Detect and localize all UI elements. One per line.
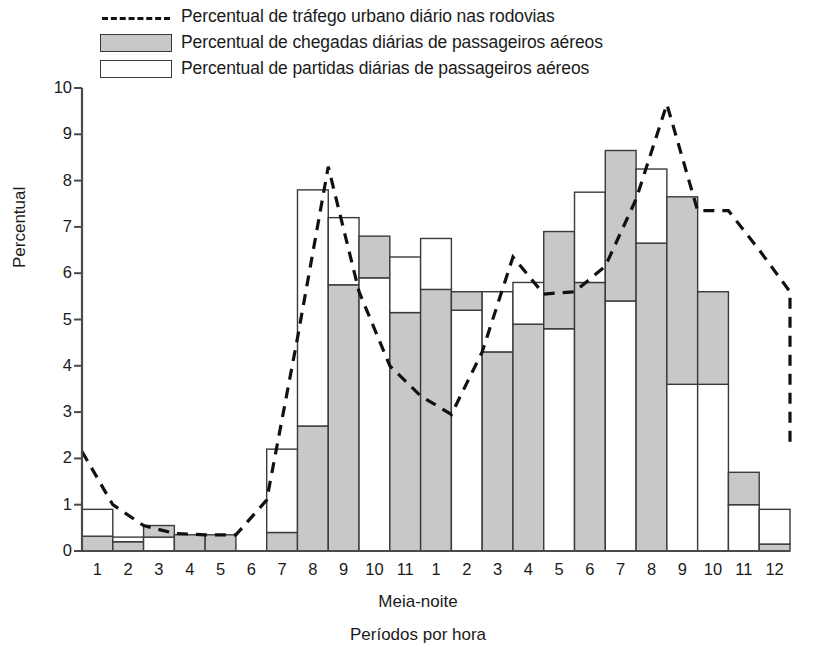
bar-segment-departures <box>605 301 636 551</box>
bar-segment-arrivals <box>297 426 328 551</box>
bar-segment-arrivals <box>667 197 698 385</box>
bar-segment-departures <box>544 329 575 551</box>
bar-segment-departures <box>698 384 729 551</box>
bar-segment-arrivals <box>205 535 236 551</box>
x-tick-label: 7 <box>604 561 638 578</box>
y-tick-label: 4 <box>34 357 72 374</box>
bars-group <box>82 151 790 552</box>
bar-segment-departures <box>451 310 482 551</box>
y-tick-label: 3 <box>34 403 72 420</box>
bar-segment-departures <box>636 169 667 243</box>
bar-segment-arrivals <box>328 285 359 551</box>
x-tick-label: 10 <box>357 561 391 578</box>
bar-segment-departures <box>267 449 298 532</box>
bar-segment-departures <box>667 384 698 551</box>
y-tick-label: 8 <box>34 172 72 189</box>
bar-segment-departures <box>390 257 421 313</box>
y-tick-label: 5 <box>34 311 72 328</box>
y-tick-label: 7 <box>34 218 72 235</box>
bar-segment-arrivals <box>513 324 544 551</box>
bar-segment-departures <box>82 509 113 536</box>
x-tick-label: 9 <box>665 561 699 578</box>
x-tick-label: 8 <box>634 561 668 578</box>
bar-segment-arrivals <box>451 292 482 311</box>
x-tick-label: 6 <box>234 561 268 578</box>
x-tick-label: 1 <box>80 561 114 578</box>
y-tick-label: 0 <box>34 542 72 559</box>
y-tick-label: 9 <box>34 125 72 142</box>
x-tick-label: 4 <box>511 561 545 578</box>
bar-segment-arrivals <box>82 536 113 551</box>
y-tick-label: 6 <box>34 264 72 281</box>
y-axis-title: Percentual <box>10 187 30 268</box>
x-tick-label: 3 <box>142 561 176 578</box>
bar-segment-departures <box>421 238 452 289</box>
plot-svg <box>0 0 836 657</box>
bar-segment-arrivals <box>575 282 606 551</box>
bar-segment-arrivals <box>728 472 759 504</box>
x-tick-label: 9 <box>327 561 361 578</box>
bar-segment-departures <box>513 282 544 324</box>
x-tick-label: 3 <box>481 561 515 578</box>
x-tick-label: 12 <box>758 561 792 578</box>
x-tick-label: 10 <box>696 561 730 578</box>
bar-segment-arrivals <box>421 289 452 551</box>
bar-segment-arrivals <box>482 352 513 551</box>
bar-segment-arrivals <box>113 542 144 551</box>
bar-segment-arrivals <box>698 292 729 385</box>
x-tick-label: 5 <box>542 561 576 578</box>
bar-segment-departures <box>759 509 790 544</box>
bar-segment-arrivals <box>636 243 667 551</box>
x-tick-label: 5 <box>204 561 238 578</box>
midnight-note: Meia-noite <box>0 592 836 612</box>
bar-segment-arrivals <box>544 232 575 329</box>
bar-segment-departures <box>359 278 390 551</box>
x-tick-label: 2 <box>111 561 145 578</box>
x-tick-label: 6 <box>573 561 607 578</box>
bar-segment-departures <box>113 537 144 542</box>
y-tick-label: 2 <box>34 449 72 466</box>
x-tick-label: 8 <box>296 561 330 578</box>
x-tick-label: 1 <box>419 561 453 578</box>
bar-segment-arrivals <box>605 151 636 301</box>
bar-segment-arrivals <box>267 532 298 551</box>
chart-container: Percentual de tráfego urbano diário nas … <box>0 0 836 657</box>
x-tick-label: 11 <box>727 561 761 578</box>
x-tick-label: 7 <box>265 561 299 578</box>
bar-segment-arrivals <box>359 236 390 278</box>
bar-segment-departures <box>144 537 175 551</box>
bar-segment-departures <box>297 190 328 426</box>
bar-segment-departures <box>728 505 759 551</box>
x-tick-label: 2 <box>450 561 484 578</box>
x-tick-label: 11 <box>388 561 422 578</box>
bar-segment-arrivals <box>174 535 205 551</box>
y-tick-label: 10 <box>34 79 72 96</box>
bar-segment-arrivals <box>390 313 421 551</box>
y-tick-label: 1 <box>34 496 72 513</box>
x-axis-title: Períodos por hora <box>0 625 836 645</box>
x-tick-label: 4 <box>173 561 207 578</box>
